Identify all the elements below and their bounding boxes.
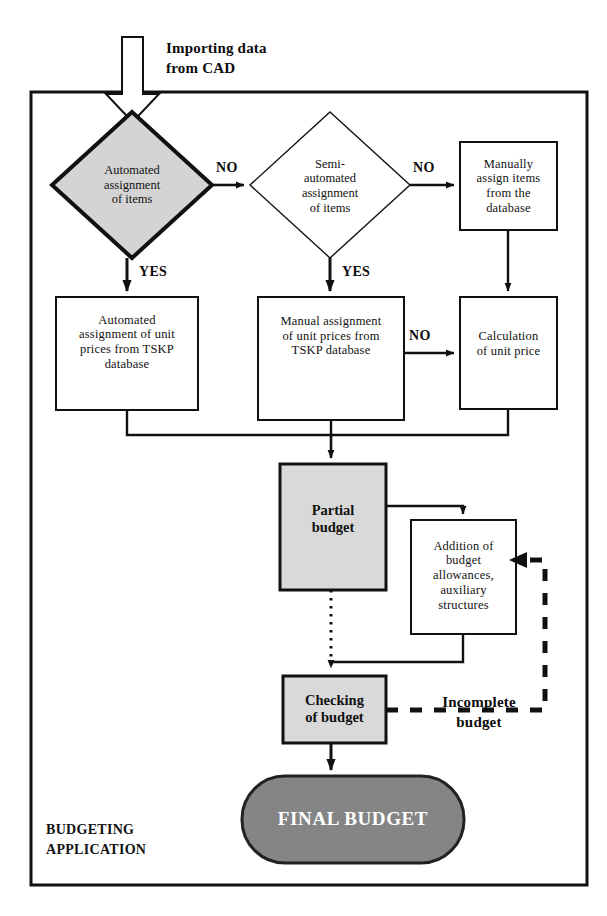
node-addition-allowances[interactable] bbox=[411, 520, 516, 634]
edge-addition-to-checking bbox=[331, 634, 463, 662]
node-manual-unit-prices[interactable] bbox=[258, 297, 404, 420]
importing-data-caption: Importing data from CAD bbox=[166, 38, 346, 79]
edge-label-semi-yes: YES bbox=[342, 264, 370, 280]
budgeting-application-caption: BUDGETING APPLICATION bbox=[46, 820, 146, 861]
budgeting-application-line1: BUDGETING bbox=[46, 822, 134, 837]
node-partial-budget[interactable] bbox=[280, 464, 386, 590]
importing-data-line1: Importing data bbox=[166, 40, 267, 56]
edge-label-manual-prices-no: NO bbox=[409, 328, 431, 344]
importing-data-arrow bbox=[106, 37, 159, 122]
node-manually-assign-items[interactable] bbox=[460, 142, 557, 230]
edge-label-semi-no: NO bbox=[413, 160, 435, 176]
edge-label-automated-yes: YES bbox=[139, 264, 167, 280]
node-automated-unit-prices[interactable] bbox=[56, 297, 198, 410]
node-checking-budget[interactable] bbox=[283, 676, 386, 743]
budgeting-application-line2: APPLICATION bbox=[46, 842, 146, 857]
incomplete-budget-line1: Incomplete bbox=[442, 694, 516, 710]
edge-partial-to-addition bbox=[386, 506, 463, 514]
importing-data-line2: from CAD bbox=[166, 60, 235, 76]
node-automated-assignment[interactable] bbox=[52, 112, 212, 258]
flowchart-canvas: Importing data from CAD Automated assign… bbox=[0, 0, 607, 916]
edge-label-automated-no: NO bbox=[216, 160, 238, 176]
node-calculation-unit-price[interactable] bbox=[460, 297, 557, 409]
incomplete-budget-label: Incomplete budget bbox=[419, 692, 539, 733]
node-final-budget[interactable] bbox=[242, 776, 464, 863]
incomplete-budget-line2: budget bbox=[456, 714, 501, 730]
node-semi-automated-assignment[interactable] bbox=[250, 112, 410, 258]
